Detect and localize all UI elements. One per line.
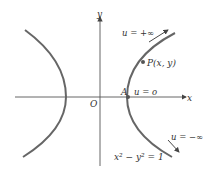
hyperbola-left-branch: [23, 30, 66, 157]
u-plus-inf-label: u = +∞: [122, 28, 154, 38]
origin-label: O: [90, 99, 98, 109]
u-minus-inf-label: u = −∞: [171, 132, 203, 142]
hyperbola-diagram: y x O A P(x, y) u = +∞ u = o u = −∞ x² −…: [0, 0, 214, 174]
y-axis-label: y: [96, 9, 103, 19]
u-zero-label: u = o: [134, 87, 157, 97]
vertex-label: A: [120, 87, 128, 97]
equation-label: x² − y² = 1: [114, 152, 164, 162]
point-label: P(x, y): [146, 58, 176, 68]
x-axis-label: x: [187, 93, 192, 103]
point-p: [141, 60, 145, 64]
